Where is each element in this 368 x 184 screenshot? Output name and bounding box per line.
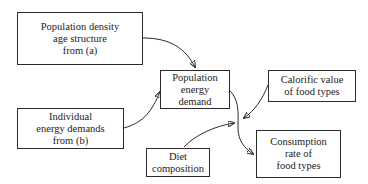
node-text: age structure	[53, 33, 107, 45]
node-consumption-rate: Consumption rate of food types	[256, 130, 341, 178]
arrow-density-to-energy	[143, 38, 195, 67]
node-text: Diet	[169, 151, 187, 163]
node-text: Population density	[41, 21, 119, 33]
node-text: Individual	[49, 111, 92, 123]
node-text: Calorific value	[281, 74, 344, 86]
node-text: Consumption	[270, 136, 327, 148]
node-text: from (b)	[53, 135, 88, 147]
node-text: Population	[172, 72, 218, 84]
node-diet-composition: Diet composition	[146, 148, 210, 177]
node-text: energy	[181, 84, 209, 96]
node-text: food types	[276, 160, 320, 172]
node-text: energy demands	[36, 123, 104, 135]
node-text: composition	[152, 163, 204, 175]
arrow-calorific-to-consumption	[244, 85, 268, 118]
arrow-diet-to-consumption	[184, 123, 234, 147]
node-calorific-value: Calorific value of food types	[268, 70, 356, 102]
node-text: from (a)	[63, 45, 98, 57]
node-individual-energy-demands: Individual energy demands from (b)	[17, 108, 124, 149]
node-text: demand	[178, 96, 211, 108]
node-population-energy-demand: Population energy demand	[160, 70, 230, 109]
node-population-density: Population density age structure from (a…	[17, 12, 143, 65]
node-text: rate of	[285, 148, 312, 160]
arrow-energy-to-consumption	[229, 90, 253, 154]
arrow-individual-to-energy	[124, 92, 160, 128]
node-text: of food types	[284, 86, 339, 98]
